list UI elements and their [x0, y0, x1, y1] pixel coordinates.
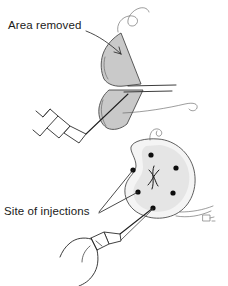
- medical-illustration-figure: Area removed: [0, 0, 228, 286]
- illustration-canvas: Area removed: [0, 0, 228, 286]
- injection-site-dot: [173, 165, 178, 170]
- injection-site-dot: [170, 190, 175, 195]
- label-site-of-injections: Site of injections: [4, 205, 90, 217]
- injection-site-dot: [148, 152, 153, 157]
- label-area-removed: Area removed: [8, 19, 81, 31]
